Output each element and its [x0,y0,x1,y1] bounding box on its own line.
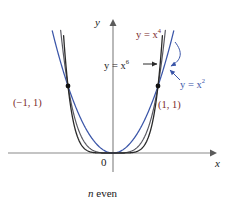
curve-label-x6: y = x6 [104,59,129,71]
curve-label-x4: y = x4 [136,28,161,40]
leader-arrow-x2 [170,70,180,80]
y-axis-label: y [95,17,100,28]
figure-n-even-power-functions: y x 0 y = x4 y = x6 y = x2 (−1, 1) (1, 1… [0,0,229,216]
curve-label-x2-lhs: y = x [180,79,202,90]
curve-label-x4-exponent: 4 [158,27,161,34]
curve-label-x2: y = x2 [180,78,205,90]
figure-caption: n even [88,188,117,199]
origin-label: 0 [101,157,107,168]
curve-label-x6-exponent: 6 [126,58,129,65]
x-axis-label: x [215,158,220,169]
curve-label-x2-exponent: 2 [202,77,205,84]
point-label-one-one: (1, 1) [158,100,181,111]
marked-point-one-one [156,84,161,89]
marked-point-minus-one-one [66,84,71,89]
point-label-minus-one-one: (−1, 1) [13,98,42,109]
curve-label-x4-lhs: y = x [136,29,158,40]
caption-text: even [94,187,118,199]
curve-label-x6-lhs: y = x [104,60,126,71]
leader-arrow-x4 [171,42,180,66]
